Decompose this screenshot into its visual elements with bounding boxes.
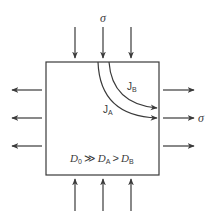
flux-label-a-sub: A <box>108 109 113 116</box>
db-main: D <box>120 152 129 164</box>
flux-curve-b <box>109 62 157 108</box>
flux-label-b: JB <box>127 81 137 93</box>
stress-label-top: σ <box>100 11 107 25</box>
bottom-compression-arrows <box>75 179 131 211</box>
d0-sub: 0 <box>78 158 82 165</box>
diffusivity-relation: D0≫DA>DB <box>69 152 134 165</box>
flux-label-b-sub: B <box>132 86 137 93</box>
op-much-greater: ≫ <box>84 152 96 164</box>
right-tension-arrows <box>163 90 194 146</box>
stress-diffusion-diagram: σ σ JB JA D0≫DA>DB <box>0 0 212 219</box>
top-compression-arrows <box>75 27 131 58</box>
stress-label-right: σ <box>198 111 205 125</box>
left-tension-arrows <box>12 90 42 146</box>
flux-label-a: JA <box>103 104 113 116</box>
da-sub: A <box>106 158 111 165</box>
d0-main: D <box>69 152 78 164</box>
da-main: D <box>97 152 106 164</box>
db-sub: B <box>129 158 134 165</box>
op-greater: > <box>112 152 118 164</box>
